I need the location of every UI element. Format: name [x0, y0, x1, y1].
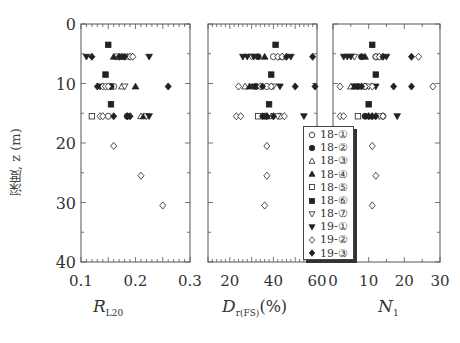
y-tick-label: 10	[56, 75, 76, 94]
y-axis-label: 深度, z (m)	[6, 96, 20, 196]
data-point	[89, 113, 95, 119]
legend-marker-icon	[307, 182, 317, 192]
data-point	[138, 172, 144, 179]
x-tick-label: 60	[307, 272, 326, 290]
x-tick-label: 0	[328, 272, 338, 290]
legend-item: 18-①	[307, 128, 353, 141]
panel-frame	[81, 24, 190, 262]
panel-frame	[208, 24, 317, 262]
x-tick-label: 0.1	[69, 272, 93, 290]
data-point	[394, 114, 401, 120]
data-point	[268, 72, 274, 78]
y-tick-label: 20	[56, 134, 76, 153]
legend-marker-shape	[309, 145, 315, 151]
legend-label: 19-②	[320, 233, 348, 246]
legend-marker-shape	[309, 132, 315, 138]
data-point	[408, 83, 414, 90]
data-point	[373, 172, 379, 179]
data-point	[165, 83, 171, 90]
data-point	[235, 83, 241, 90]
data-point	[264, 172, 270, 179]
x-tick-label: 0.3	[178, 272, 202, 290]
x-tick-label: 0.2	[124, 272, 148, 290]
data-point	[355, 113, 361, 119]
y-tick-label: 40	[56, 253, 76, 272]
legend-marker-shape	[309, 237, 315, 244]
x-axis-label-sub: L20	[106, 308, 123, 318]
data-point	[408, 53, 414, 60]
data-point	[301, 114, 308, 120]
legend-marker-icon	[307, 169, 317, 179]
data-point	[369, 142, 375, 149]
legend-item: 18-⑥	[307, 194, 353, 207]
legend-label: 18-④	[320, 168, 348, 181]
legend-item: 18-⑦	[307, 207, 353, 220]
x-axis-label-sub: r(FS)	[236, 308, 260, 318]
legend-label: 19-①	[320, 220, 348, 233]
legend-item: 19-①	[307, 220, 353, 233]
legend-item: 18-②	[307, 141, 353, 154]
x-tick-label: 40	[264, 272, 283, 290]
panel-R_L20: 0.10.20.3	[69, 24, 202, 290]
legend-label: 19-③	[320, 247, 348, 260]
legend-marker-icon	[307, 222, 317, 232]
x-tick-label: 30	[430, 272, 449, 290]
x-tick-label: 20	[220, 272, 239, 290]
legend-label: 18-②	[320, 141, 348, 154]
data-point	[264, 142, 270, 149]
x-axis-label-dr: Dr(FS)(%)	[222, 296, 287, 318]
legend-item: 18-⑤	[307, 181, 353, 194]
legend-marker-icon	[307, 248, 317, 258]
legend-marker-shape	[309, 211, 315, 216]
legend-marker-shape	[310, 185, 315, 190]
data-point	[111, 113, 117, 120]
data-point	[292, 83, 298, 90]
data-point	[369, 42, 375, 48]
chart-panels: 0.10.20.32040600102030	[69, 24, 449, 290]
y-axis-tick-labels: 010203040	[56, 15, 76, 272]
data-point	[106, 42, 112, 48]
x-axis-label-sub: 1	[393, 308, 399, 318]
legend-marker-shape	[309, 158, 315, 163]
legend-label: 18-⑤	[320, 181, 348, 194]
legend-item: 18-④	[307, 168, 353, 181]
data-point	[160, 202, 166, 209]
data-point	[103, 72, 109, 78]
legend-marker-icon	[307, 235, 317, 245]
legend-label: 18-③	[320, 154, 348, 167]
data-point	[310, 53, 316, 60]
legend-item: 19-②	[307, 234, 353, 247]
legend-marker-shape	[309, 225, 315, 230]
x-tick-label: 10	[359, 272, 378, 290]
chart-canvas: 0.10.20.32040600102030 010203040	[0, 0, 460, 343]
data-point	[373, 72, 379, 78]
data-point	[108, 102, 114, 108]
data-point	[146, 54, 153, 60]
data-point	[391, 83, 397, 90]
legend-marker-icon	[307, 143, 317, 153]
data-point	[366, 102, 372, 108]
legend-marker-icon	[307, 156, 317, 166]
data-point	[341, 113, 347, 120]
x-axis-label-rl20: RL20	[93, 296, 123, 318]
data-point	[416, 53, 422, 60]
chart-legend: 18-①18-②18-③18-④18-⑤18-⑥18-⑦19-①19-②19-③	[303, 126, 354, 260]
data-point	[266, 102, 272, 108]
data-point	[262, 202, 268, 209]
data-point	[273, 42, 279, 48]
legend-label: 18-①	[320, 128, 348, 141]
legend-marker-icon	[307, 209, 317, 219]
data-point	[430, 83, 436, 90]
legend-marker-shape	[309, 250, 315, 257]
x-axis-label-main: D	[222, 296, 236, 316]
y-tick-label: 30	[56, 194, 76, 213]
legend-item: 18-③	[307, 154, 353, 167]
data-point	[337, 83, 343, 90]
data-point	[238, 113, 244, 120]
x-tick-label: 20	[395, 272, 414, 290]
legend-label: 18-⑥	[320, 194, 348, 207]
x-axis-label-main: R	[93, 296, 106, 316]
x-axis-label-n1: N1	[378, 296, 399, 318]
x-axis-label-main: N	[378, 296, 393, 316]
legend-marker-shape	[309, 171, 315, 176]
